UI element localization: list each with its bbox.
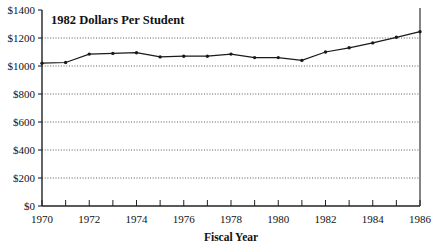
x-tick-label: 1984 [362,213,385,225]
data-point [395,36,398,39]
x-tick-label: 1976 [173,213,196,225]
y-tick-labels: $0$200$400$600$800$1000$1200$1400 [8,4,36,212]
data-point [277,56,280,59]
x-tick-marks [42,200,420,206]
data-series-line [42,32,420,64]
data-point [158,55,161,58]
y-tick-label: $0 [24,200,36,212]
data-point [371,41,374,44]
data-point [182,55,185,58]
x-tick-label: 1980 [267,213,290,225]
data-point [253,56,256,59]
y-tick-label: $1000 [8,60,36,72]
y-tick-label: $1200 [8,32,36,44]
series-polyline [42,32,420,64]
data-point [418,30,421,33]
x-tick-label: 1972 [78,213,100,225]
data-point [324,50,327,53]
data-point [40,62,43,65]
y-tick-label: $1400 [8,4,36,16]
data-point [111,52,114,55]
line-chart: $0$200$400$600$800$1000$1200$1400 197019… [0,0,439,248]
x-axis-title: Fiscal Year [204,231,258,243]
x-tick-label: 1970 [31,213,54,225]
gridlines [42,38,420,178]
chart-container: $0$200$400$600$800$1000$1200$1400 197019… [0,0,439,248]
y-tick-label: $600 [13,116,36,128]
y-tick-label: $400 [13,144,36,156]
x-tick-label: 1986 [409,213,432,225]
data-point [229,52,232,55]
x-tick-labels: 197019721974197619781980198219841986 [31,213,432,225]
y-tick-label: $200 [13,172,36,184]
x-tick-label: 1982 [315,213,337,225]
data-point [206,55,209,58]
chart-title: 1982 Dollars Per Student [51,13,185,27]
data-point [88,52,91,55]
data-point [347,46,350,49]
data-point-markers [40,30,421,65]
data-point [300,59,303,62]
data-point [64,61,67,64]
y-tick-label: $800 [13,88,36,100]
x-tick-label: 1978 [220,213,243,225]
data-point [135,51,138,54]
x-tick-label: 1974 [126,213,149,225]
